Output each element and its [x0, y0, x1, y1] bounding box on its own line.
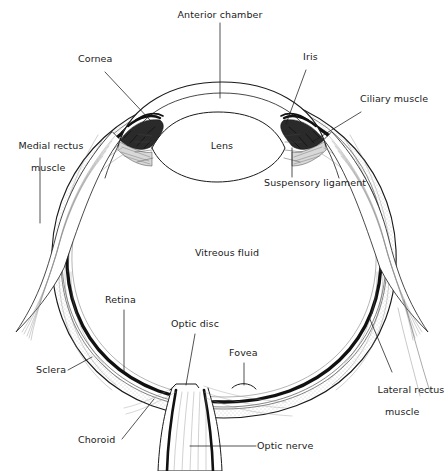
label-medial-rectus-muscle-line1: Medial rectus [18, 140, 83, 151]
label-retina: Retina [105, 294, 136, 305]
label-lateral-rectus-muscle-line1: Lateral rectus [377, 384, 444, 395]
label-optic-nerve: Optic nerve [257, 440, 313, 451]
label-sclera: Sclera [36, 364, 66, 375]
label-anterior-chamber: Anterior chamber [166, 9, 274, 20]
label-iris: Iris [303, 51, 318, 62]
label-suspensory-ligament: Suspensory ligament [264, 177, 366, 188]
label-lens: Lens [199, 140, 245, 151]
label-lateral-rectus-muscle-line2: muscle [385, 406, 420, 417]
label-optic-disc: Optic disc [171, 318, 219, 329]
label-vitreous-fluid: Vitreous fluid [178, 247, 276, 258]
label-fovea: Fovea [229, 347, 258, 358]
label-lateral-rectus-muscle: Lateral rectus muscle [365, 373, 427, 428]
label-medial-rectus-muscle: Medial rectus muscle [6, 129, 78, 184]
leader-cornea [105, 72, 150, 120]
eye-anatomy-diagram: Anterior chamber Cornea Iris Ciliary mus… [0, 0, 445, 471]
label-cornea: Cornea [78, 53, 112, 64]
label-medial-rectus-muscle-line2: muscle [31, 162, 66, 173]
label-choroid: Choroid [78, 434, 115, 445]
label-ciliary-muscle: Ciliary muscle [360, 93, 428, 104]
leader-choroid [122, 399, 154, 439]
